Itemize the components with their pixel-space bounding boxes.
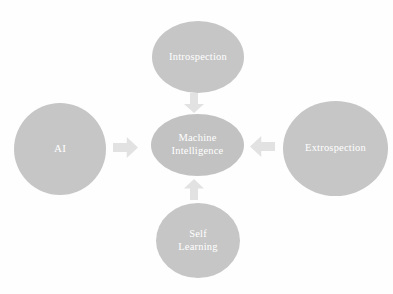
arrow-right-icon bbox=[113, 137, 138, 158]
node-extrospection-label: Extrospection bbox=[299, 142, 372, 155]
arrow-up-icon bbox=[184, 179, 204, 200]
node-ai[interactable]: AI bbox=[14, 103, 106, 195]
node-machine-intelligence-label: Machine Intelligence bbox=[166, 132, 230, 158]
node-self-learning[interactable]: Self Learning bbox=[156, 203, 240, 278]
diagram-canvas: AI Introspection Machine Intelligence Ex… bbox=[0, 0, 393, 294]
arrow-down-icon bbox=[184, 93, 204, 113]
arrow-left-icon bbox=[250, 136, 275, 157]
node-ai-label: AI bbox=[48, 142, 72, 155]
node-introspection-label: Introspection bbox=[163, 51, 233, 64]
node-self-learning-label: Self Learning bbox=[172, 228, 224, 254]
node-introspection[interactable]: Introspection bbox=[152, 21, 244, 93]
node-extrospection[interactable]: Extrospection bbox=[283, 101, 388, 196]
node-machine-intelligence[interactable]: Machine Intelligence bbox=[151, 114, 244, 176]
